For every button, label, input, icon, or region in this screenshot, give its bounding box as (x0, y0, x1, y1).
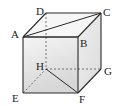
vertex-label-H: H (36, 60, 44, 72)
vertex-label-E: E (12, 92, 19, 104)
front-face (23, 37, 78, 93)
vertex-label-C: C (103, 6, 110, 18)
vertex-label-G: G (104, 65, 112, 77)
vertex-label-F: F (79, 93, 85, 105)
vertex-label-B: B (80, 37, 87, 49)
cube-diagram: A B C D E F G H (0, 0, 120, 106)
vertex-label-D: D (36, 5, 44, 17)
vertex-label-A: A (11, 28, 19, 40)
